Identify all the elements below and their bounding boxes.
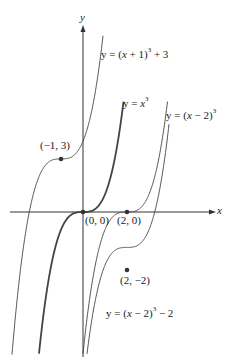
x-axis-arrow-icon [209, 210, 216, 215]
curve-label-shift-right-down: y = (x − 2)3 − 2 [106, 308, 173, 319]
point-label-origin: (0, 0) [85, 215, 109, 226]
x-axis-label: x [217, 205, 222, 216]
point-label-neg1-3: (−1, 3) [40, 140, 70, 151]
curve-label-base: y = x3 [123, 98, 149, 109]
curve-shift-right-down [87, 124, 169, 354]
y-axis-arrow-icon [81, 25, 86, 32]
point-label-2-0: (2, 0) [117, 215, 141, 226]
curve-label-shift-right: y = (x − 2)3 [166, 110, 216, 121]
point-neg1-3 [59, 157, 64, 162]
y-axis-label: y [80, 12, 85, 23]
point-label-2-neg2: (2, −2) [120, 275, 150, 286]
point-2-neg2 [125, 268, 130, 273]
curve-label-shift-left-up: y = (x + 1)3 + 3 [101, 49, 168, 60]
curve-shift-left-up [12, 36, 103, 355]
